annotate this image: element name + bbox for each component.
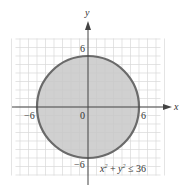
inequality-graph: x y −6 0 6 6 −6 x2 + y2 ≤ 36 — [0, 0, 185, 192]
tick-label-x-neg6: −6 — [24, 110, 35, 121]
y-axis-label: y — [84, 7, 90, 18]
tick-label-y-neg6: −6 — [74, 159, 85, 170]
tick-label-y-6: 6 — [80, 43, 85, 54]
x-axis-arrow-icon — [163, 104, 172, 110]
inequality-annotation: x2 + y2 ≤ 36 — [99, 163, 146, 174]
x-axis-label: x — [173, 101, 179, 112]
y-axis-arrow-icon — [85, 21, 91, 30]
tick-label-origin: 0 — [80, 110, 85, 121]
tick-label-x-6: 6 — [141, 110, 146, 121]
